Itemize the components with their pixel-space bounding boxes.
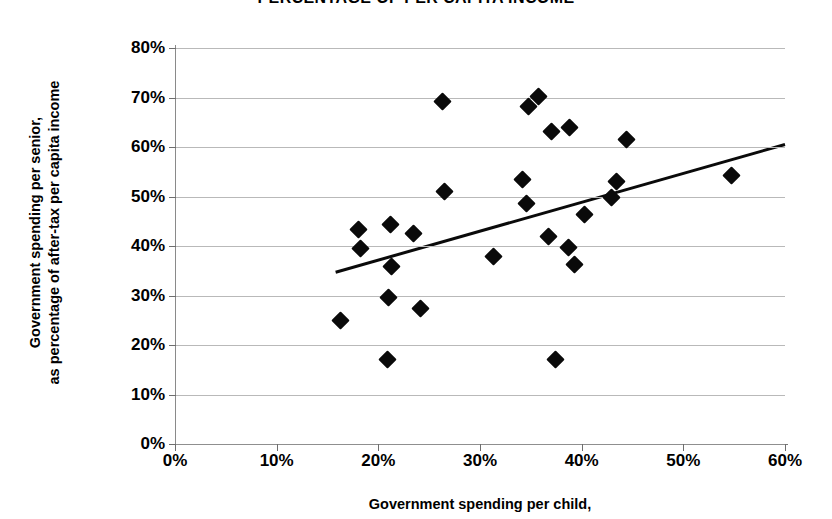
y-tick-label-0: 0% (85, 435, 165, 452)
x-axis-tick-labels: 0%10%20%30%40%50%60% (0, 452, 832, 478)
x-tick-20 (378, 444, 379, 451)
x-tick-30 (480, 444, 481, 451)
x-tick-0 (175, 444, 176, 451)
gridline-y-30 (175, 296, 785, 297)
y-tick-70 (169, 98, 176, 99)
x-tick-label-30: 30% (445, 452, 515, 469)
y-axis-tick-labels: 0%10%20%30%40%50%60%70%80% (80, 0, 165, 519)
x-tick-40 (582, 444, 583, 451)
y-tick-20 (169, 345, 176, 346)
x-tick-50 (683, 444, 684, 451)
x-tick-label-0: 0% (140, 452, 210, 469)
x-tick-60 (785, 444, 786, 451)
scatter-chart-figure: PERCENTAGE OF PER CAPITA INCOME Governme… (0, 0, 832, 519)
x-tick-label-40: 40% (547, 452, 617, 469)
y-tick-label-50: 50% (85, 188, 165, 205)
x-tick-label-20: 20% (343, 452, 413, 469)
x-axis-title: Government spending per child, (175, 496, 785, 512)
gridline-y-50 (175, 197, 785, 198)
y-tick-label-70: 70% (85, 89, 165, 106)
gridline-y-70 (175, 98, 785, 99)
y-tick-50 (169, 197, 176, 198)
x-tick-label-50: 50% (648, 452, 718, 469)
y-axis-title-line-1: Government spending per senior, (26, 28, 45, 438)
gridline-y-20 (175, 345, 785, 346)
x-tick-label-60: 60% (750, 452, 820, 469)
y-tick-label-80: 80% (85, 39, 165, 56)
gridline-y-80 (175, 48, 785, 49)
y-tick-label-30: 30% (85, 287, 165, 304)
x-tick-10 (277, 444, 278, 451)
y-tick-40 (169, 246, 176, 247)
y-tick-30 (169, 296, 176, 297)
x-tick-label-10: 10% (242, 452, 312, 469)
y-tick-label-60: 60% (85, 138, 165, 155)
y-tick-10 (169, 395, 176, 396)
gridline-y-10 (175, 395, 785, 396)
y-axis-title-line-2: as percentage of after-tax per capita in… (45, 28, 64, 438)
trendline-segment (336, 145, 785, 273)
y-tick-label-40: 40% (85, 237, 165, 254)
y-tick-80 (169, 48, 176, 49)
gridline-y-60 (175, 147, 785, 148)
y-tick-label-10: 10% (85, 386, 165, 403)
y-tick-label-20: 20% (85, 336, 165, 353)
y-tick-60 (169, 147, 176, 148)
gridline-y-40 (175, 246, 785, 247)
plot-area (175, 48, 785, 444)
y-axis-title: Government spending per senior, as perce… (26, 28, 63, 438)
